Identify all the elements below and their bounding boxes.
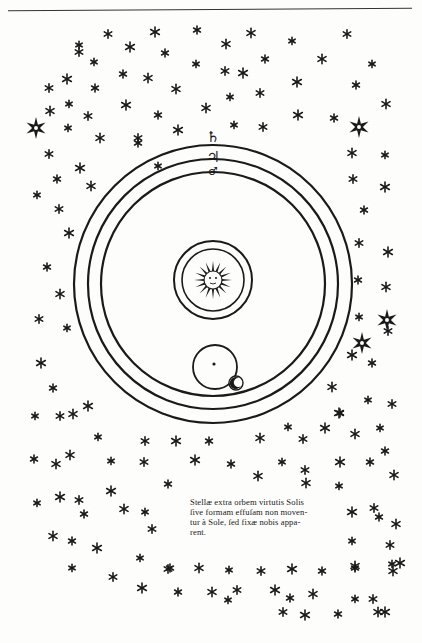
- star-icon: [208, 587, 216, 596]
- star-icon: [294, 110, 303, 120]
- star-icon: [120, 70, 127, 78]
- star-icon: [389, 566, 397, 575]
- star-icon: [328, 382, 336, 391]
- star-icon: [69, 409, 77, 418]
- star-icon: [262, 55, 269, 63]
- star-icon: [52, 459, 60, 468]
- star-icon: [64, 324, 70, 331]
- star-icon: [44, 263, 51, 271]
- star-icon: [63, 74, 72, 84]
- star-icon: [377, 424, 383, 431]
- star-icon: [109, 573, 116, 582]
- star-icon: [54, 175, 61, 183]
- star-icon: [148, 525, 155, 534]
- planet-symbols: ♄♃♂: [206, 128, 219, 178]
- star-icon: [384, 327, 391, 336]
- caption-line: ſive formam effuſam non moven-: [190, 507, 340, 517]
- star-icon: [104, 30, 111, 39]
- star-icon: [370, 504, 377, 513]
- star-icon: [335, 408, 344, 418]
- saturn-symbol-icon: ♄: [206, 128, 219, 146]
- large-star-icon: [350, 116, 369, 138]
- star-icon: [381, 607, 390, 617]
- star-icon: [348, 350, 357, 360]
- star-icon: [151, 27, 160, 37]
- star-icon: [45, 84, 52, 93]
- star-icon: [84, 401, 93, 411]
- star-icon: [75, 496, 82, 505]
- star-icon: [288, 564, 297, 574]
- star-icon: [382, 99, 390, 108]
- star-icon: [279, 608, 286, 617]
- star-icon: [257, 567, 264, 576]
- star-icon: [35, 315, 42, 324]
- star-icon: [162, 49, 169, 57]
- star-icon: [193, 60, 199, 67]
- star-icon: [388, 400, 395, 409]
- caption-text: Stellæ extra orbem virtutis Solis ſive f…: [190, 497, 340, 537]
- large-star-icon: [353, 332, 372, 354]
- star-icon: [87, 181, 95, 190]
- large-star-icon: [27, 117, 46, 139]
- star-icon: [92, 84, 99, 92]
- star-icon: [69, 537, 76, 545]
- star-icon: [194, 26, 201, 34]
- star-icon: [231, 121, 237, 128]
- star-icon: [285, 423, 291, 430]
- star-icon: [386, 541, 393, 550]
- star-icon: [55, 205, 62, 214]
- star-icon: [46, 106, 54, 115]
- star-icon: [254, 471, 262, 480]
- star-icon: [34, 499, 40, 506]
- large-star-icon: [378, 309, 397, 331]
- star-icon: [228, 460, 235, 468]
- star-icon: [271, 585, 280, 595]
- star-icon: [225, 596, 231, 603]
- star-icon: [361, 206, 368, 214]
- star-icon: [37, 358, 46, 368]
- star-icon: [289, 37, 295, 44]
- sun-face-icon: [194, 261, 232, 299]
- star-icon: [56, 492, 65, 502]
- star-icon: [382, 151, 388, 158]
- star-icon: [206, 437, 213, 445]
- star-icon: [195, 563, 203, 572]
- star-icon: [66, 100, 72, 107]
- star-icon: [226, 566, 232, 573]
- star-icon: [126, 42, 135, 52]
- woodcut-page: ♄♃♂ Stellæ extra orbem virtutis Solis ſi…: [0, 0, 422, 643]
- star-icon: [299, 435, 306, 444]
- star-icon: [352, 595, 358, 602]
- star-icon: [140, 458, 147, 467]
- star-icon: [137, 554, 143, 561]
- star-icon: [336, 457, 345, 467]
- earth-dot: [212, 362, 215, 365]
- star-icon: [222, 39, 230, 48]
- star-icon: [389, 560, 395, 567]
- star-icon: [355, 239, 362, 248]
- star-icon: [31, 455, 38, 463]
- cosmology-diagram: ♄♃♂: [0, 0, 422, 643]
- star-icon: [355, 276, 362, 284]
- star-icon: [165, 480, 172, 488]
- star-icon: [392, 519, 400, 528]
- star-icon: [155, 162, 161, 169]
- star-icon: [233, 586, 240, 595]
- star-icon: [138, 583, 147, 593]
- star-icon: [75, 48, 82, 57]
- star-icon: [93, 543, 102, 553]
- star-icon: [318, 54, 326, 63]
- star-icon: [351, 429, 359, 438]
- star-icon: [142, 508, 148, 515]
- earth-moon-epicycle: [193, 345, 243, 390]
- star-icon: [96, 133, 104, 142]
- star-icon: [349, 175, 356, 184]
- star-icon: [369, 595, 376, 604]
- star-icon: [32, 412, 38, 419]
- star-icon: [302, 478, 310, 487]
- star-icon: [50, 384, 57, 392]
- star-icon: [227, 93, 233, 100]
- star-icon: [343, 30, 350, 39]
- star-icon: [221, 67, 228, 76]
- star-icon: [287, 594, 294, 602]
